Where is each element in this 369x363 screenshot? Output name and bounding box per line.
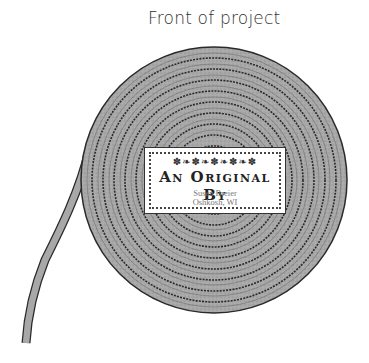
label-dotted-border: ✽❧✽❧✽❧✽❧✽ An Original By Susan Breier Os… — [149, 152, 281, 209]
maker-location: Oshkosh, WI — [151, 197, 279, 207]
maker-label: ✽❧✽❧✽❧✽❧✽ An Original By Susan Breier Os… — [144, 147, 286, 214]
flourish-ornament-icon: ✽❧✽❧✽❧✽❧✽ — [151, 156, 279, 168]
